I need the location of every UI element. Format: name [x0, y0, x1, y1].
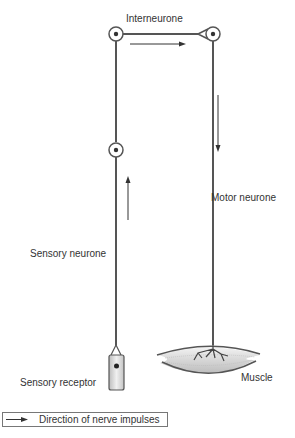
sensory-interneurone-cell-body — [109, 27, 123, 41]
label-muscle: Muscle — [241, 372, 273, 383]
muscle-shape — [157, 345, 260, 373]
label-interneurone: Interneurone — [126, 13, 183, 24]
label-sensory-receptor: Sensory receptor — [20, 377, 96, 388]
legend-box: Direction of nerve impulses — [2, 412, 168, 427]
label-motor-neurone: Motor neurone — [211, 192, 276, 203]
arrow-down-icon — [216, 95, 221, 152]
legend-text: Direction of nerve impulses — [39, 414, 160, 425]
arrow-right-icon — [130, 42, 186, 47]
interneurone-axon — [122, 29, 208, 39]
sensory-neurone-axon — [109, 41, 123, 355]
motor-neurone-cell-body — [206, 27, 220, 41]
arrow-up-icon — [126, 176, 131, 220]
sensory-receptor-shape — [109, 355, 124, 390]
label-sensory-neurone: Sensory neurone — [30, 248, 106, 259]
